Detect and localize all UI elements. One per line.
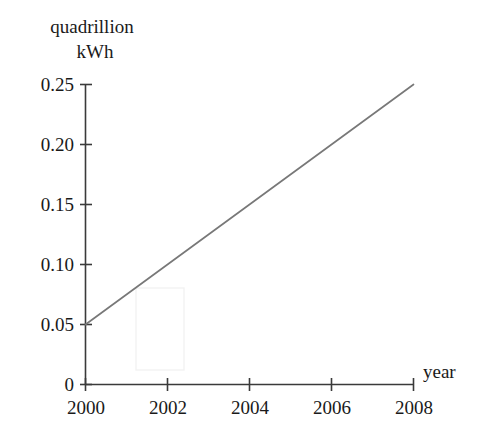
x-tick-label-2002: 2002 bbox=[133, 398, 203, 417]
y-tick-label-005: 0.05 bbox=[14, 315, 74, 334]
y-tick-label-025: 0.25 bbox=[14, 75, 74, 94]
data-series-line bbox=[86, 85, 414, 325]
y-tick-label-015: 0.15 bbox=[14, 195, 74, 214]
x-tick-label-2008: 2008 bbox=[379, 398, 449, 417]
x-tick-label-2000: 2000 bbox=[51, 398, 121, 417]
plot-area bbox=[0, 0, 484, 435]
y-tick-label-010: 0.10 bbox=[14, 255, 74, 274]
scan-artifact bbox=[136, 288, 184, 370]
y-tick-label-000: 0 bbox=[14, 375, 74, 394]
x-tick-label-2006: 2006 bbox=[297, 398, 367, 417]
y-tick-label-020: 0.20 bbox=[14, 135, 74, 154]
line-chart: quadrillion kWh year 0. bbox=[0, 0, 484, 435]
x-tick-label-2004: 2004 bbox=[215, 398, 285, 417]
